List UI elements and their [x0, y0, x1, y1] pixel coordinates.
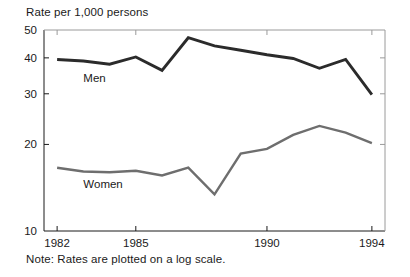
y-tick-label: 20	[24, 138, 37, 150]
y-tick-label: 40	[24, 52, 37, 64]
chart-note: Note: Rates are plotted on a log scale.	[26, 253, 226, 265]
y-tick-label: 50	[24, 24, 37, 36]
series-lines	[57, 38, 372, 195]
series-label-women: Women	[83, 178, 122, 190]
series-line-men	[57, 38, 372, 95]
y-tick-label: 30	[24, 88, 37, 100]
y-tick-label: 10	[24, 225, 37, 237]
line-chart-plot: 1020304050 1982198519901994 MenWomen	[0, 0, 410, 277]
y-axis-ticks: 1020304050	[24, 24, 385, 237]
x-tick-label: 1994	[359, 237, 385, 249]
chart-figure: Rate per 1,000 persons 1020304050 198219…	[0, 0, 410, 277]
x-tick-label: 1985	[123, 237, 149, 249]
x-tick-label: 1990	[254, 237, 280, 249]
x-tick-label: 1982	[44, 237, 70, 249]
series-label-men: Men	[83, 72, 105, 84]
